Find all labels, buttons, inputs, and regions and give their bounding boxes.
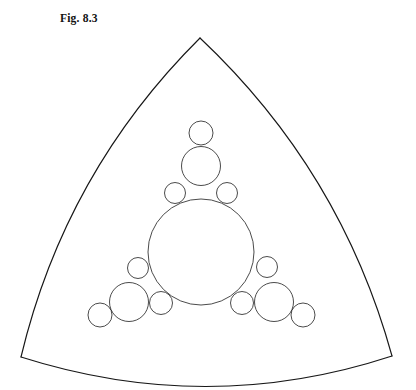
left-lower-flank-circle: [150, 292, 173, 315]
central-circle: [148, 199, 254, 305]
upper-small-circle: [189, 121, 213, 145]
upper-right-flank-circle: [217, 183, 238, 204]
lower-left-small-circle: [88, 303, 112, 327]
bottom-arc: [21, 356, 392, 386]
lower-right-small-circle: [291, 303, 315, 327]
right-arc: [200, 38, 392, 356]
upper-medium-circle: [182, 147, 221, 186]
apollonian-gasket-figure: [0, 0, 416, 390]
figure-container: Fig. 8.3: [0, 0, 416, 390]
curvilinear-triangle-boundary: [21, 38, 392, 386]
right-upper-flank-circle: [257, 257, 278, 278]
right-medium-circle: [255, 283, 294, 322]
left-upper-flank-circle: [128, 258, 149, 279]
left-medium-circle: [110, 283, 149, 322]
upper-left-flank-circle: [165, 183, 186, 204]
right-lower-flank-circle: [231, 292, 254, 315]
packed-circles-layer: [88, 121, 315, 327]
